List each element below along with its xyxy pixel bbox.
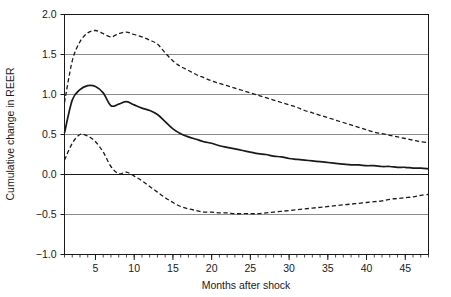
y-axis-tick-label: 0.0: [42, 168, 57, 180]
chart-container: −1.0−0.50.00.51.01.52.0 5101520253035404…: [0, 0, 451, 297]
y-axis-title: Cumulative change in REER: [4, 67, 16, 200]
x-axis-tick-label: 5: [93, 262, 99, 274]
y-axis-tick-label: 1.0: [42, 88, 57, 100]
reer-impulse-response-chart: −1.0−0.50.00.51.01.52.0 5101520253035404…: [0, 0, 451, 297]
y-axis-tick-label: 1.5: [42, 48, 57, 60]
x-axis-tick-label: 25: [245, 262, 257, 274]
x-axis-tick-label: 20: [206, 262, 218, 274]
x-axis-title: Months after shock: [202, 279, 291, 291]
x-axis-tick-label: 15: [167, 262, 179, 274]
x-axis-tick-label: 30: [283, 262, 295, 274]
y-axis-tick-label: −1.0: [36, 248, 57, 260]
x-axis-tick-label: 35: [322, 262, 334, 274]
y-axis-tick-label: 2.0: [42, 8, 57, 20]
y-axis-tick-label: 0.5: [42, 128, 57, 140]
x-axis-tick-label: 10: [128, 262, 140, 274]
y-axis-tick-label: −0.5: [36, 208, 57, 220]
chart-background: [0, 0, 451, 297]
x-axis-tick-label: 45: [399, 262, 411, 274]
x-axis-tick-label: 40: [361, 262, 373, 274]
